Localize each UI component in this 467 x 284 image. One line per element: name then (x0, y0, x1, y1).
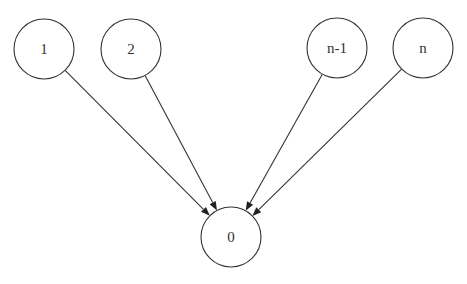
nodes: 12n-1n0 (14, 18, 453, 267)
graph-diagram: 12n-1n0 (0, 0, 467, 284)
node-n: n (393, 18, 453, 78)
node-label: n (419, 40, 427, 56)
arrowhead-icon (210, 201, 217, 211)
edge-n-1-to-0 (250, 74, 322, 203)
node-1: 1 (14, 19, 74, 79)
node-label: 0 (227, 229, 235, 245)
arrowhead-icon (246, 201, 253, 211)
edges (65, 69, 401, 216)
node-label: 2 (127, 41, 135, 57)
node-n-1: n-1 (307, 18, 367, 78)
node-label: n-1 (327, 40, 347, 56)
node-0: 0 (201, 207, 261, 267)
node-2: 2 (101, 19, 161, 79)
edge-1-to-0 (65, 70, 203, 209)
edge-2-to-0 (145, 75, 213, 202)
node-label: 1 (40, 41, 48, 57)
edge-n-to-0 (259, 69, 402, 210)
